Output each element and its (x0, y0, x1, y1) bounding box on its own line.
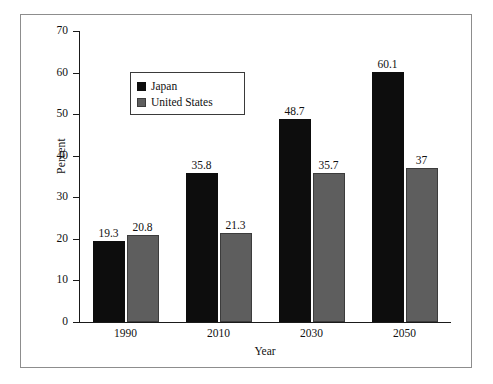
y-axis-tick-label: 20 (42, 233, 68, 245)
bar-japan-2050 (372, 72, 404, 322)
chart-legend: Japan United States (130, 72, 245, 115)
legend-label-japan: Japan (151, 80, 177, 92)
bar-united-states-1990 (127, 235, 159, 321)
bar-chart-plot: 010203040506070 Percent 19.320.835.821.3… (0, 0, 493, 384)
bar-japan-1990 (93, 241, 125, 321)
x-axis-tick-label: 2050 (375, 327, 435, 340)
legend-item-japan: Japan (137, 78, 244, 94)
bar-japan-2010 (186, 173, 218, 322)
bar-japan-2030 (279, 119, 311, 321)
bar-united-states-2010 (220, 233, 252, 321)
x-axis-line (79, 322, 451, 323)
bar-value-label: 20.8 (121, 221, 165, 233)
y-axis-tick-mark (73, 73, 79, 74)
y-axis-tick-mark (73, 280, 79, 281)
y-axis-tick-label: 70 (42, 25, 68, 37)
y-axis-tick-mark (73, 31, 79, 32)
bar-value-label: 48.7 (273, 105, 317, 117)
bar-united-states-2030 (313, 173, 345, 321)
y-axis-tick-label: 0 (42, 316, 68, 328)
y-axis-tick-mark (73, 156, 79, 157)
japan-swatch-icon (137, 82, 146, 91)
y-axis-tick-label: 60 (42, 67, 68, 79)
y-axis-title: Percent (55, 116, 67, 196)
x-axis-tick-label: 2010 (189, 327, 249, 340)
bar-value-label: 21.3 (214, 219, 258, 231)
legend-label-united-states: United States (151, 96, 213, 108)
bar-value-label: 35.8 (180, 159, 224, 171)
x-axis-tick-label: 2030 (282, 327, 342, 340)
x-axis-title: Year (79, 345, 451, 357)
bar-value-label: 37 (400, 154, 444, 166)
y-axis-tick-mark (73, 322, 79, 323)
united-states-swatch-icon (137, 98, 146, 107)
y-axis-tick-mark (73, 114, 79, 115)
legend-item-united-states: United States (137, 94, 244, 110)
bar-value-label: 60.1 (366, 58, 410, 70)
bar-united-states-2050 (406, 168, 438, 322)
y-axis-tick-label: 10 (42, 274, 68, 286)
y-axis-tick-mark (73, 239, 79, 240)
y-axis-line (79, 31, 80, 323)
x-axis-tick-label: 1990 (96, 327, 156, 340)
bar-value-label: 35.7 (307, 159, 351, 171)
y-axis-tick-mark (73, 197, 79, 198)
